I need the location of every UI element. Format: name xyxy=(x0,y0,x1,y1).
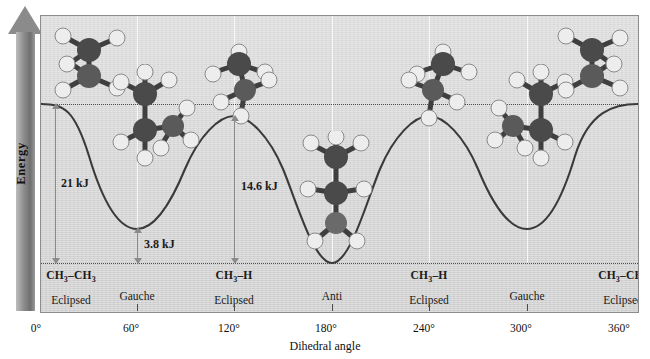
molecule-eclipsed-240 xyxy=(389,38,485,130)
energy-axis-arrow: Energy xyxy=(8,6,42,311)
conformation-360: CH3–CH3 Eclipsed xyxy=(553,269,639,306)
conformation-180: Anti xyxy=(282,269,382,302)
xtick-180: 180° xyxy=(296,322,356,334)
conformation-120: CH3–H Eclipsed xyxy=(184,269,284,306)
molecule-anti-180 xyxy=(293,131,379,256)
butane-energy-diagram: Energy xyxy=(0,0,650,359)
tick-60 xyxy=(137,304,138,311)
molecule-eclipsed-360 xyxy=(546,24,638,104)
y-axis-label: Energy xyxy=(14,129,29,199)
conformation-360-state: Eclipsed xyxy=(553,294,639,306)
xtick-240: 240° xyxy=(394,322,454,334)
xtick-0: 0° xyxy=(6,322,66,334)
plot-area: 21 kJ 3.8 kJ 14.6 kJ CH3–CH3 Eclipsed Ga… xyxy=(40,15,639,313)
tick-120 xyxy=(234,304,235,311)
measure-14.6kj-label: 14.6 kJ xyxy=(241,179,278,194)
conformation-60-formula xyxy=(87,269,187,281)
measure-3.8kj-arrow xyxy=(137,232,138,259)
measure-21kj-arrow xyxy=(55,108,56,259)
arrow-head-icon xyxy=(8,6,42,34)
molecule-eclipsed-120 xyxy=(193,38,289,130)
conformation-120-formula: CH3–H xyxy=(184,269,284,285)
molecule-gauche-60 xyxy=(103,64,203,169)
tick-300 xyxy=(527,304,528,311)
xtick-360: 360° xyxy=(589,322,649,334)
conformation-label-band: CH3–CH3 Eclipsed Gauche CH3–H Eclipsed A… xyxy=(41,264,638,311)
conformation-60-state: Gauche xyxy=(87,290,187,302)
xtick-60: 60° xyxy=(101,322,161,334)
conformation-240-formula: CH3–H xyxy=(379,269,479,285)
measure-14.6kj-arrow xyxy=(234,120,235,259)
xtick-120: 120° xyxy=(199,322,259,334)
measure-21kj-label: 21 kJ xyxy=(61,176,89,191)
conformation-60: Gauche xyxy=(87,269,187,302)
conformation-180-formula xyxy=(282,269,382,281)
conformation-240: CH3–H Eclipsed xyxy=(379,269,479,306)
tick-240 xyxy=(429,304,430,311)
xtick-300: 300° xyxy=(491,322,551,334)
conformation-360-formula: CH3–CH3 xyxy=(553,269,639,285)
measure-3.8kj-label: 3.8 kJ xyxy=(144,237,175,252)
tick-180 xyxy=(332,304,333,311)
conformation-180-state: Anti xyxy=(282,290,382,302)
x-axis-title: Dihedral angle xyxy=(0,339,650,354)
